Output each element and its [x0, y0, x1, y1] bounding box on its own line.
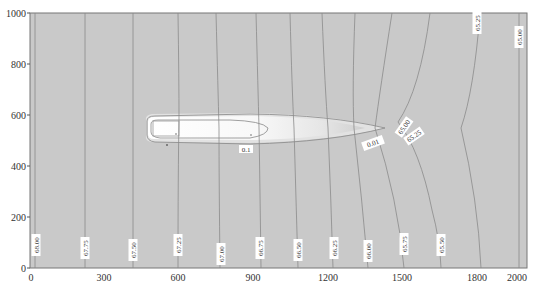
- x-axis: 0 300 600 900 1200 1500 1800 2000: [29, 272, 528, 283]
- contour-label-66.00: 66.00: [365, 243, 373, 259]
- y-tick-1000: 1000: [6, 8, 26, 19]
- contour-label-66.50: 66.50: [295, 242, 303, 258]
- x-tick-2000: 2000: [507, 272, 527, 283]
- y-tick-800: 800: [11, 59, 26, 70]
- x-tick-600: 600: [171, 272, 186, 283]
- x-tick-900: 900: [246, 272, 261, 283]
- y-tick-0: 0: [21, 263, 26, 274]
- contour-chart: 68.00 67.75 67.50 67.25 67.00 66.75 66.5…: [0, 0, 535, 289]
- x-tick-0: 0: [29, 272, 34, 283]
- contour-label-67.50: 67.50: [130, 242, 138, 258]
- y-tick-200: 200: [11, 212, 26, 223]
- contour-label-65.75: 65.75: [401, 236, 409, 252]
- contour-label-65.00-top: 65.00: [516, 29, 524, 45]
- y-tick-400: 400: [11, 161, 26, 172]
- y-axis: 0 200 400 600 800 1000: [6, 8, 30, 274]
- contour-label-68.00: 68.00: [33, 237, 41, 253]
- x-tick-1800: 1800: [467, 272, 487, 283]
- y-tick-600: 600: [11, 110, 26, 121]
- contour-label-67.75: 67.75: [82, 240, 90, 256]
- contour-label-66.75: 66.75: [257, 240, 265, 256]
- x-tick-1200: 1200: [318, 272, 338, 283]
- contour-label-67.25: 67.25: [175, 237, 183, 253]
- contour-label-66.25: 66.25: [331, 240, 339, 256]
- contour-label-65.50: 65.50: [438, 237, 446, 253]
- x-tick-300: 300: [97, 272, 112, 283]
- contour-label-0.1: 0.1: [242, 146, 251, 154]
- contour-label-65.25-top: 65.25: [474, 15, 482, 31]
- contour-label-67.00: 67.00: [218, 246, 226, 262]
- x-tick-1500: 1500: [392, 272, 412, 283]
